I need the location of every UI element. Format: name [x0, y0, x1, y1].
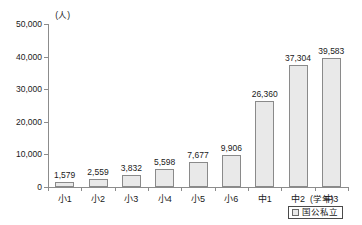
y-tick-label: 30,000 [0, 84, 42, 94]
x-axis-line [48, 187, 348, 188]
y-tick-label: 10,000 [0, 149, 42, 159]
y-tick-label: 50,000 [0, 19, 42, 29]
y-tick-label: 20,000 [0, 117, 42, 127]
y-tick-mark [44, 154, 48, 155]
x-tick-mark [148, 187, 149, 191]
bar [155, 169, 174, 187]
x-tick-mark [81, 187, 82, 191]
x-axis-title: (学年) [310, 192, 334, 204]
x-tick-mark [248, 187, 249, 191]
x-tick-mark [281, 187, 282, 191]
bar [189, 162, 208, 187]
legend-label: 国公私立 [302, 208, 338, 217]
x-tick-mark [115, 187, 116, 191]
plot-area: 010,00020,00030,00040,00050,000 1,5792,5… [48, 24, 348, 187]
y-tick-mark [44, 24, 48, 25]
legend: 国公私立 [288, 206, 343, 219]
y-tick-mark [44, 57, 48, 58]
bar-chart: (人) 010,00020,00030,00040,00050,000 1,57… [0, 0, 362, 225]
bar [255, 101, 274, 187]
x-tick-mark [315, 187, 316, 191]
x-tick-mark [181, 187, 182, 191]
bar [222, 155, 241, 187]
y-tick-label: 40,000 [0, 52, 42, 62]
x-tick-mark [215, 187, 216, 191]
y-tick-mark [44, 89, 48, 90]
bar-value-label: 39,583 [306, 46, 356, 56]
bar [89, 179, 108, 187]
bar-value-label: 9,906 [206, 143, 256, 153]
y-axis-line [48, 24, 49, 187]
y-tick-mark [44, 122, 48, 123]
x-tick-mark [48, 187, 49, 191]
bar [289, 65, 308, 187]
x-tick-mark [348, 187, 349, 191]
bar [55, 182, 74, 187]
bar [122, 175, 141, 187]
bar [322, 58, 341, 187]
bar-value-label: 26,360 [240, 89, 290, 99]
y-tick-label: 0 [0, 182, 42, 192]
legend-swatch-icon [292, 209, 299, 216]
